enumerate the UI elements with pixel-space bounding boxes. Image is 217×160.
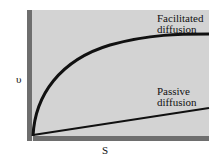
x-axis-label: S <box>102 145 108 156</box>
passive-line2: diffusion <box>157 97 197 108</box>
passive-diffusion-annotation: Passive diffusion <box>157 86 197 108</box>
facilitated-line2: diffusion <box>157 24 203 35</box>
y-axis-label: υ <box>16 74 21 85</box>
passive-diffusion-line <box>33 108 209 135</box>
facilitated-diffusion-annotation: Facilitated diffusion <box>157 13 203 35</box>
